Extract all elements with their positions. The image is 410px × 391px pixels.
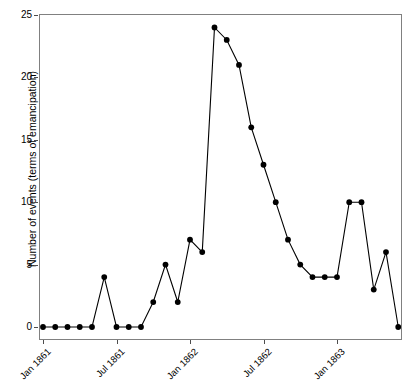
data-point <box>114 324 120 330</box>
data-point <box>334 274 340 280</box>
data-point <box>371 287 377 293</box>
x-tick-label: Jan 1863 <box>295 346 347 391</box>
data-point <box>322 274 328 280</box>
x-tick-mark <box>117 340 118 344</box>
x-tick-mark <box>264 340 265 344</box>
y-tick-mark <box>34 15 38 16</box>
data-point <box>77 324 83 330</box>
data-point <box>212 25 218 31</box>
data-point <box>273 199 279 205</box>
data-point <box>199 249 205 255</box>
data-point <box>52 324 58 330</box>
x-tick-label: Jan 1862 <box>148 346 200 391</box>
data-point <box>138 324 144 330</box>
x-tick-mark <box>190 340 191 344</box>
data-point <box>395 324 401 330</box>
data-point <box>285 237 291 243</box>
data-point <box>40 324 46 330</box>
data-point <box>383 249 389 255</box>
data-point <box>248 124 254 130</box>
data-point <box>150 299 156 305</box>
y-tick-label: 15 <box>6 134 32 145</box>
data-point <box>224 37 230 43</box>
y-tick-mark <box>34 202 38 203</box>
y-tick-label: 5 <box>6 259 32 270</box>
x-tick-label: Jan 1861 <box>1 346 53 391</box>
y-tick-label: 0 <box>6 321 32 332</box>
y-tick-label: 25 <box>6 9 32 20</box>
data-point <box>163 262 169 268</box>
x-tick-mark <box>337 340 338 344</box>
x-tick-label: Jul 1862 <box>222 346 274 391</box>
x-tick-mark <box>43 340 44 344</box>
series-line <box>43 27 398 327</box>
y-tick-mark <box>34 77 38 78</box>
data-point <box>310 274 316 280</box>
y-tick-mark <box>34 265 38 266</box>
data-point <box>297 262 303 268</box>
y-tick-mark <box>34 327 38 328</box>
data-point <box>101 274 107 280</box>
data-point <box>126 324 132 330</box>
data-point <box>261 162 267 168</box>
data-point <box>346 199 352 205</box>
x-tick-label: Jul 1861 <box>75 346 127 391</box>
chart-root: Number of events (terms of emancipation)… <box>0 0 410 391</box>
y-tick-mark <box>34 140 38 141</box>
data-point <box>236 62 242 68</box>
data-point <box>187 237 193 243</box>
data-point <box>65 324 71 330</box>
data-point <box>175 299 181 305</box>
y-tick-label: 10 <box>6 196 32 207</box>
y-tick-label: 20 <box>6 71 32 82</box>
data-point <box>359 199 365 205</box>
data-point <box>89 324 95 330</box>
line-series-plot <box>40 15 401 339</box>
plot-panel <box>39 14 402 340</box>
